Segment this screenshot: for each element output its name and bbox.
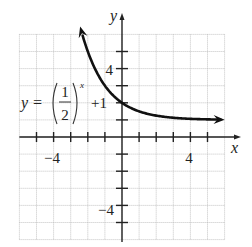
x-tick-label-neg4: −4 [44,150,60,166]
y-axis-arrow-icon [120,13,125,20]
y-tick-label-neg4: −4 [98,202,114,218]
y-axis-label: y [108,7,118,25]
fraction-denominator: 2 [61,107,69,123]
equation-label: y = 1 2 x +1 [19,80,107,124]
equation-lhs: y = [19,94,43,112]
equation-exponent: x [79,80,84,90]
x-axis-label: x [230,139,238,156]
y-tick-label-4: 4 [106,62,114,78]
fraction-numerator: 1 [61,84,69,100]
right-paren [73,83,77,124]
x-tick-label-4: 4 [185,150,193,166]
equation-suffix: +1 [91,95,107,111]
function-graph: y x −4 4 4 −4 y = 1 2 x +1 [0,0,252,247]
